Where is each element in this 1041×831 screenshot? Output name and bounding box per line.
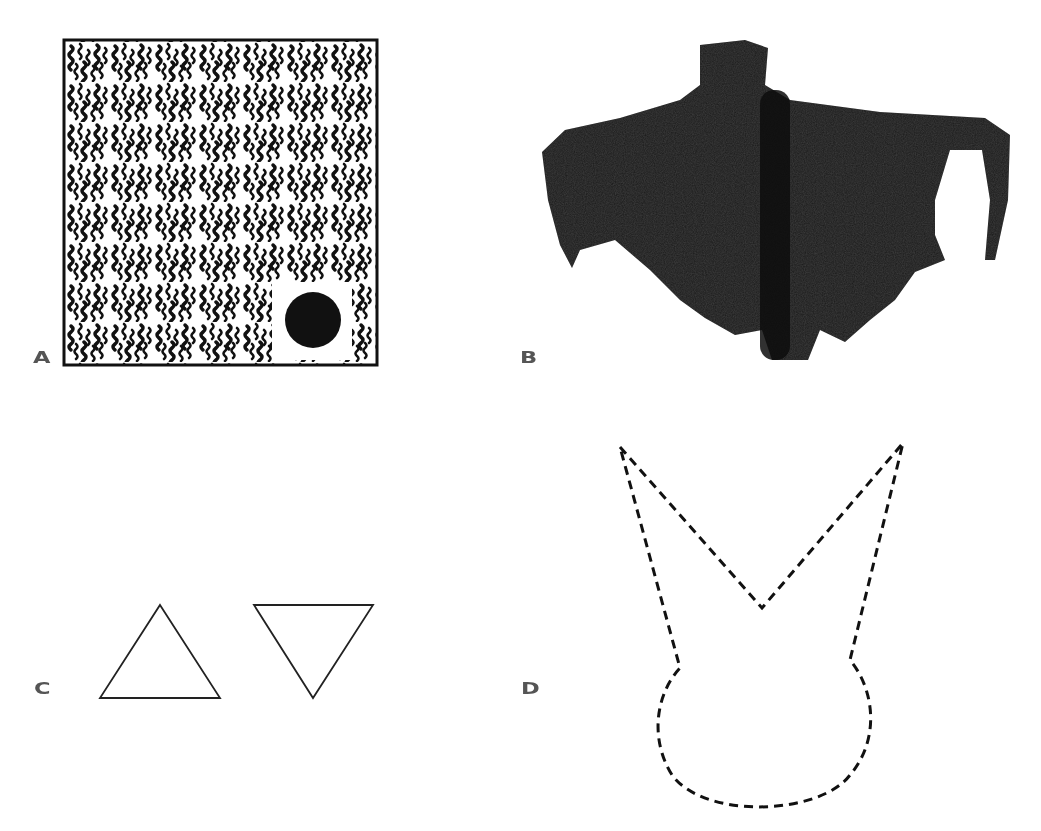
panel-a [64,40,377,365]
triangle-up [100,605,220,698]
panel-label-b: B [520,349,537,367]
panel-label-c: C [34,680,51,698]
solid-circle [285,292,341,348]
dashed-outline-shape [620,443,903,807]
moth-thorax [760,90,790,360]
panel-label-d: D [521,680,540,698]
triangle-down [254,605,373,698]
panel-d [620,443,903,807]
panel-label-a: A [33,349,50,367]
panel-c [100,605,373,698]
figure-canvas [0,0,1041,831]
panel-b-moth [542,40,1010,360]
